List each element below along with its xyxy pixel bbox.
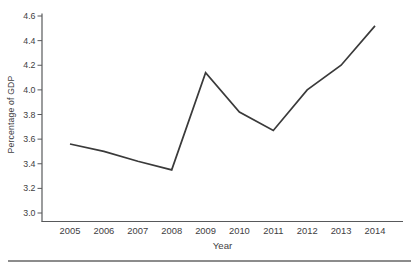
y-axis-title: Percentage of GDP	[5, 15, 18, 215]
y-tick-label: 3.2	[23, 183, 35, 193]
x-tick-label: 2011	[263, 225, 283, 236]
x-tick-label: 2009	[195, 225, 216, 236]
y-tick-label: 3.6	[23, 134, 35, 144]
gdp-line-chart-figure: 3.03.23.43.63.84.04.24.44.62005200620072…	[0, 0, 418, 270]
y-tick-label: 4.4	[23, 36, 35, 46]
x-tick-label: 2013	[331, 225, 352, 236]
x-tick-label: 2006	[93, 225, 114, 236]
x-axis-title: Year	[42, 240, 403, 251]
y-tick-label: 4.6	[23, 11, 35, 21]
x-tick-label: 2014	[365, 225, 386, 236]
y-tick-label: 4.2	[23, 60, 35, 70]
x-tick-label: 2010	[229, 225, 250, 236]
bottom-rule	[8, 260, 411, 262]
y-tick-label: 4.0	[23, 85, 35, 95]
x-tick-label: 2008	[161, 225, 182, 236]
chart-plot-area: 3.03.23.43.63.84.04.24.44.62005200620072…	[0, 0, 418, 270]
x-tick-label: 2007	[127, 225, 148, 236]
data-line	[70, 26, 375, 170]
y-tick-label: 3.0	[23, 208, 35, 218]
y-tick-label: 3.4	[23, 159, 35, 169]
x-tick-label: 2012	[297, 225, 318, 236]
x-tick-label: 2005	[60, 225, 81, 236]
y-tick-label: 3.8	[23, 110, 35, 120]
